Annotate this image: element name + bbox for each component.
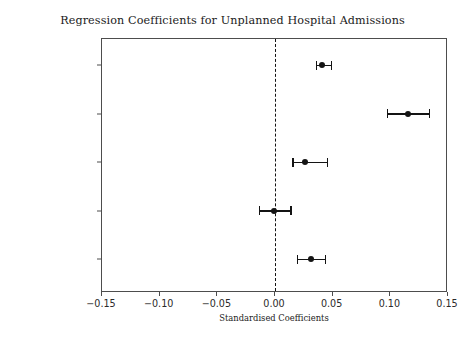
chart-title: Regression Coefficients for Unplanned Ho…	[0, 14, 465, 27]
x-tick-mark	[389, 292, 390, 296]
plot-area	[101, 38, 447, 292]
zero-reference-line	[275, 39, 276, 291]
ci-cap-upper	[331, 61, 332, 70]
coefficient-point-marker	[271, 208, 277, 214]
y-tick-mark	[97, 113, 101, 114]
x-tick-mark	[101, 292, 102, 296]
x-tick-label: 0.05	[321, 298, 342, 309]
x-tick-mark	[332, 292, 333, 296]
x-tick-label: −0.05	[202, 298, 231, 309]
x-tick-mark	[447, 292, 448, 296]
x-tick-mark	[159, 292, 160, 296]
ci-cap-upper	[429, 109, 430, 118]
ci-cap-upper	[325, 255, 326, 264]
ci-cap-lower	[259, 206, 260, 215]
ci-cap-upper	[290, 206, 291, 215]
x-tick-label: 0.00	[263, 298, 284, 309]
y-tick-mark	[97, 162, 101, 163]
y-tick-mark	[97, 65, 101, 66]
x-tick-mark	[274, 292, 275, 296]
x-tick-label: −0.15	[86, 298, 115, 309]
y-tick-mark	[97, 210, 101, 211]
confidence-interval-bar	[292, 162, 327, 164]
regression-coefficient-forest-plot: Regression Coefficients for Unplanned Ho…	[0, 0, 465, 338]
ci-cap-upper	[327, 158, 328, 167]
x-tick-mark	[216, 292, 217, 296]
ci-cap-lower	[316, 61, 317, 70]
x-axis-label: Standardised Coefficients	[101, 313, 447, 323]
x-tick-label: 0.10	[379, 298, 400, 309]
ci-cap-lower	[297, 255, 298, 264]
x-tick-label: −0.10	[144, 298, 173, 309]
ci-cap-lower	[387, 109, 388, 118]
x-tick-label: 0.15	[436, 298, 457, 309]
y-tick-mark	[97, 259, 101, 260]
coefficient-point-marker	[405, 111, 411, 117]
ci-cap-lower	[292, 158, 293, 167]
